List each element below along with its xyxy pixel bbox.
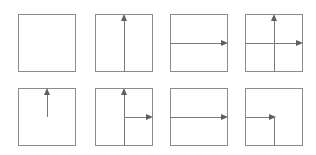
arrow-right-icon: [146, 114, 153, 120]
arrow-right-icon: [296, 40, 303, 46]
panel-arrow-diagram: [170, 88, 228, 146]
panel-arrow-diagram: [95, 88, 153, 146]
arrow-up-icon: [271, 14, 277, 21]
panel-arrow-diagram: [245, 88, 303, 146]
arrow-right-icon: [221, 40, 228, 46]
arrow-right-icon: [269, 114, 276, 120]
panel-arrow-diagram: [170, 14, 228, 72]
panel-arrow-diagram: [18, 14, 76, 72]
panel-4: [245, 14, 303, 72]
arrow-up-icon: [44, 88, 50, 95]
panel-5: [18, 88, 76, 146]
arrow-up-icon: [121, 14, 127, 21]
panel-6: [95, 88, 153, 146]
panel-arrow-diagram: [18, 88, 76, 146]
arrow-right-icon: [221, 114, 228, 120]
panel-7: [170, 88, 228, 146]
panel-8: [245, 88, 303, 146]
panel-3: [170, 14, 228, 72]
panel-arrow-diagram: [95, 14, 153, 72]
arrow-up-icon: [121, 88, 127, 95]
figure-panel-grid: [0, 0, 316, 155]
panel-1: [18, 14, 76, 72]
panel-arrow-diagram: [245, 14, 303, 72]
panel-2: [95, 14, 153, 72]
